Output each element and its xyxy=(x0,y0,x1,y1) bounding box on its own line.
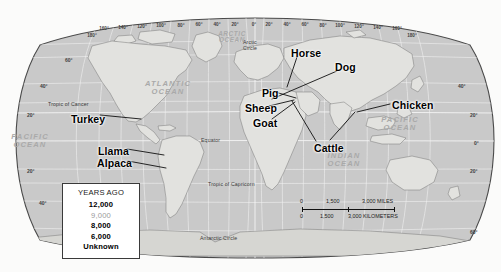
pacific-ocean-east-line2: OCEAN xyxy=(381,124,419,132)
arctic-ocean-line2: OCEAN xyxy=(218,37,246,43)
longitude-label-1: 160° xyxy=(99,27,109,32)
longitude-label-14: 100° xyxy=(335,24,345,29)
latitude-label-6: 40° xyxy=(458,84,466,89)
longitude-label-2: 140° xyxy=(118,26,128,31)
animal-label-chicken: Chicken xyxy=(392,100,434,111)
atlantic-ocean-label: ATLANTICOCEAN xyxy=(145,80,191,95)
latitude-label-8: 0° xyxy=(474,141,479,146)
scale-km-mid: 1,500 xyxy=(320,213,334,219)
longitude-label-15: 120° xyxy=(354,25,364,30)
arctic-circle-label: Arctic Circle xyxy=(243,40,265,52)
latitude-label-0: 60° xyxy=(65,58,73,63)
latitude-label-9: 20° xyxy=(470,169,478,174)
legend-title: YEARS AGO xyxy=(65,188,137,197)
indian-ocean-label: INDIANOCEAN xyxy=(328,152,361,167)
atlantic-ocean-line2: OCEAN xyxy=(145,88,191,96)
longitude-label-0: 180° xyxy=(87,34,97,39)
pacific-ocean-west-line2: OCEAN xyxy=(11,141,49,149)
longitude-label-9: 0° xyxy=(252,23,256,28)
scale-bar-graphic xyxy=(300,207,432,212)
longitude-label-11: 40° xyxy=(284,23,291,28)
longitude-label-18: 180° xyxy=(407,34,417,39)
longitude-label-4: 100° xyxy=(156,24,166,29)
animal-label-goat: Goat xyxy=(253,118,277,129)
scale-kilometers-labels: 0 1,500 3,000 KILOMETERS xyxy=(300,213,432,221)
animal-label-pig: Pig xyxy=(262,88,279,99)
tropic-of-capricorn-label: Tropic of Capricorn xyxy=(208,182,255,187)
animal-label-alpaca: Alpaca xyxy=(97,158,132,169)
legend-entry-4: Unknown xyxy=(65,242,137,251)
legend-entry-3: 6,000 xyxy=(65,232,137,241)
animal-label-dog: Dog xyxy=(335,62,356,73)
animal-label-sheep: Sheep xyxy=(245,103,277,114)
pacific-ocean-east-label: PACIFICOCEAN xyxy=(381,116,419,131)
equator-label: Equator xyxy=(201,138,220,143)
longitude-label-5: 80° xyxy=(178,24,185,29)
legend-entries: 12,0009,0008,0006,000Unknown xyxy=(65,200,137,251)
longitude-label-3: 120° xyxy=(137,25,147,30)
longitude-label-16: 140° xyxy=(373,26,383,31)
longitude-label-10: 20° xyxy=(266,23,273,28)
longitude-label-7: 40° xyxy=(214,23,221,28)
scale-miles-labels: 0 1,500 3,000 MILES xyxy=(300,198,432,206)
antarctic-circle-label: Antarctic Circle xyxy=(200,236,237,241)
longitude-label-12: 60° xyxy=(302,23,309,28)
animal-label-llama: Llama xyxy=(98,146,129,157)
legend-box: YEARS AGO 12,0009,0008,0006,000Unknown xyxy=(62,183,140,259)
scale-km-max: 3,000 KILOMETERS xyxy=(348,213,398,219)
longitude-label-8: 20° xyxy=(232,23,239,28)
tropic-of-cancer-label: Tropic of Cancer xyxy=(48,102,89,107)
world-map: ARCTICOCEANATLANTICOCEANPACIFICOCEANPACI… xyxy=(0,0,501,272)
legend-entry-2: 8,000 xyxy=(65,221,137,230)
animal-label-cattle: Cattle xyxy=(314,143,344,154)
scale-miles-max: 3,000 MILES xyxy=(362,198,393,204)
animal-label-turkey: Turkey xyxy=(71,114,105,125)
arctic-ocean-label: ARCTICOCEAN xyxy=(218,31,246,44)
longitude-label-6: 60° xyxy=(196,23,203,28)
indian-ocean-line2: OCEAN xyxy=(328,160,361,168)
legend-entry-0: 12,000 xyxy=(65,200,137,209)
scale-miles-mid: 1,500 xyxy=(326,198,340,204)
legend-entry-1: 9,000 xyxy=(65,211,137,220)
scale-bar: 0 1,500 3,000 MILES 0 1,500 3,000 KILOME… xyxy=(300,198,432,221)
longitude-label-13: 80° xyxy=(320,24,327,29)
scale-km-zero: 0 xyxy=(300,213,303,219)
longitude-label-17: 160° xyxy=(392,27,402,32)
latitude-label-3: 20° xyxy=(27,169,35,174)
latitude-label-4: 40° xyxy=(39,201,47,206)
scale-miles-zero: 0 xyxy=(300,198,303,204)
pacific-ocean-west-label: PACIFICOCEAN xyxy=(11,133,49,148)
latitude-label-5: 60° xyxy=(470,230,478,235)
latitude-label-1: 40° xyxy=(40,84,48,89)
latitude-label-2: 20° xyxy=(27,113,35,118)
animal-label-horse: Horse xyxy=(291,48,321,59)
latitude-label-7: 20° xyxy=(470,113,478,118)
